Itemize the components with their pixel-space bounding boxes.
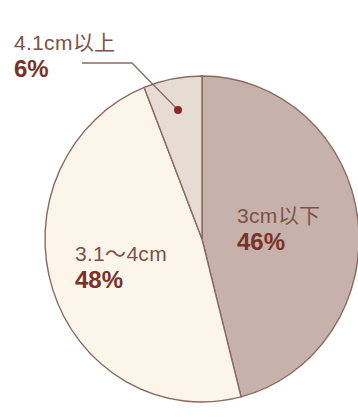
slice-name: 3cm以下 — [237, 204, 320, 227]
label-3-1-to-4cm: 3.1〜4cm 48% — [75, 243, 167, 292]
slice-percent: 48% — [75, 268, 167, 292]
slice-name: 4.1cm以上 — [14, 31, 115, 54]
label-3cm-or-less: 3cm以下 46% — [237, 205, 320, 254]
slice-percent: 46% — [237, 230, 320, 254]
slice-percent: 6% — [14, 57, 115, 81]
label-small-slice: 4.1cm以上 6% — [14, 32, 115, 81]
leader-dot — [174, 106, 182, 114]
slice-name: 3.1〜4cm — [75, 242, 167, 265]
